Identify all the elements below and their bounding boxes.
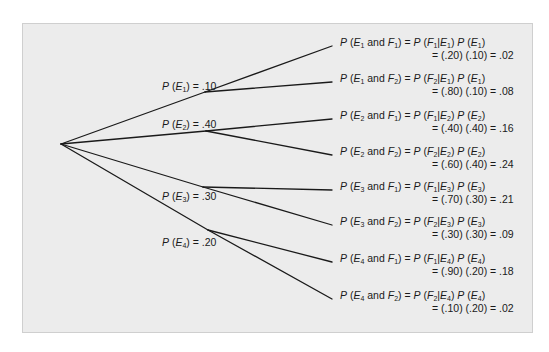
prior-value: .10 bbox=[202, 80, 217, 92]
branch-e3-f1 bbox=[203, 187, 332, 190]
joint-calculation: = (.60) (.40) = .24 bbox=[340, 158, 514, 171]
joint-probability-e2-f1: P (E2 and F1) = P (F1|E2) P (E2)= (.40) … bbox=[340, 109, 514, 135]
joint-formula: P (E3 and F1) = P (F1|E3) P (E3) bbox=[340, 180, 514, 193]
joint-formula: P (E1 and F2) = P (F2|E1) P (E1) bbox=[340, 72, 514, 85]
prior-label-e3: P (E3) = .30 bbox=[162, 190, 216, 203]
joint-calculation: = (.40) (.40) = .16 bbox=[340, 122, 514, 135]
joint-probability-e3-f2: P (E3 and F2) = P (F2|E3) P (E3)= (.30) … bbox=[340, 215, 514, 241]
prior-value: .20 bbox=[202, 236, 217, 248]
prior-label-e4: P (E4) = .20 bbox=[162, 236, 216, 249]
joint-probability-e4-f2: P (E4 and F2) = P (F2|E4) P (E4)= (.10) … bbox=[340, 289, 514, 315]
prior-label-e1: P (E1) = .10 bbox=[162, 80, 216, 93]
joint-formula: P (E4 and F1) = P (F1|E4) P (E4) bbox=[340, 252, 514, 265]
joint-probability-e2-f2: P (E2 and F2) = P (F2|E2) P (E2)= (.60) … bbox=[340, 145, 514, 171]
branch-e4-f1 bbox=[208, 230, 332, 262]
branch-e4 bbox=[61, 144, 208, 230]
joint-probability-e4-f1: P (E4 and F1) = P (F1|E4) P (E4)= (.90) … bbox=[340, 252, 514, 278]
joint-calculation: = (.70) (.30) = .21 bbox=[340, 193, 514, 206]
prior-value: .40 bbox=[202, 118, 217, 130]
joint-formula: P (E2 and F2) = P (F2|E2) P (E2) bbox=[340, 145, 514, 158]
branch-e3 bbox=[61, 144, 203, 187]
prior-label-e2: P (E2) = .40 bbox=[162, 118, 216, 131]
joint-formula: P (E3 and F2) = P (F2|E3) P (E3) bbox=[340, 215, 514, 228]
branch-e2 bbox=[61, 131, 206, 144]
prior-value: .30 bbox=[202, 190, 217, 202]
joint-formula: P (E4 and F2) = P (F2|E4) P (E4) bbox=[340, 289, 514, 302]
branch-e2-f1 bbox=[206, 119, 332, 131]
branch-e1-f1 bbox=[205, 46, 332, 92]
branch-e2-f2 bbox=[206, 131, 332, 155]
joint-formula: P (E2 and F1) = P (F1|E2) P (E2) bbox=[340, 109, 514, 122]
branch-e3-f2 bbox=[203, 187, 332, 225]
joint-calculation: = (.90) (.20) = .18 bbox=[340, 265, 514, 278]
joint-calculation: = (.80) (.10) = .08 bbox=[340, 85, 514, 98]
joint-calculation: = (.30) (.30) = .09 bbox=[340, 228, 514, 241]
joint-probability-e1-f1: P (E1 and F1) = P (F1|E1) P (E1)= (.20) … bbox=[340, 36, 514, 62]
joint-calculation: = (.20) (.10) = .02 bbox=[340, 49, 514, 62]
joint-formula: P (E1 and F1) = P (F1|E1) P (E1) bbox=[340, 36, 514, 49]
branch-e1-f2 bbox=[205, 82, 332, 92]
joint-probability-e3-f1: P (E3 and F1) = P (F1|E3) P (E3)= (.70) … bbox=[340, 180, 514, 206]
joint-probability-e1-f2: P (E1 and F2) = P (F2|E1) P (E1)= (.80) … bbox=[340, 72, 514, 98]
joint-calculation: = (.10) (.20) = .02 bbox=[340, 302, 514, 315]
branch-e4-f2 bbox=[208, 230, 332, 299]
